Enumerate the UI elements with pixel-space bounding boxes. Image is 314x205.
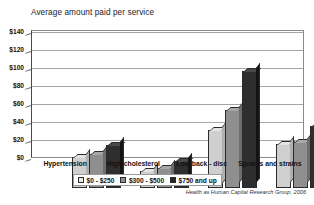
bar-group xyxy=(200,62,268,188)
bar-slot xyxy=(72,62,89,188)
chart-title: Average amount paid per service xyxy=(31,8,154,17)
y-tick-label: $0 xyxy=(17,154,24,161)
legend-swatch-icon xyxy=(120,177,126,183)
bar-slot xyxy=(208,62,225,188)
bar-slot xyxy=(174,62,191,188)
y-tick-label: $80 xyxy=(13,82,24,89)
source-note: Health as Human Capital Research Group, … xyxy=(186,189,306,195)
bar[interactable] xyxy=(310,126,314,188)
bar-slot xyxy=(140,62,157,188)
y-axis: $140$120$100$80$60$40$20$0 xyxy=(0,30,31,158)
legend-swatch-icon xyxy=(170,177,176,183)
y-tick-label: $20 xyxy=(13,136,24,143)
y-tick-label: $40 xyxy=(13,118,24,125)
legend-item[interactable]: $300 - $500 xyxy=(120,177,164,184)
gridline xyxy=(32,32,303,33)
legend-item[interactable]: $0 - $250 xyxy=(78,177,114,184)
bar-group xyxy=(64,62,132,188)
bar-slot xyxy=(89,62,106,188)
chart-container: Average amount paid per service $140$120… xyxy=(0,0,314,205)
x-axis: HypertensionHigh cholesterolLow back - d… xyxy=(31,160,304,167)
y-tick-label: $140 xyxy=(9,28,24,35)
y-tick-label: $60 xyxy=(13,100,24,107)
legend-swatch-icon xyxy=(78,177,84,183)
bar-slot xyxy=(106,62,123,188)
bar[interactable] xyxy=(242,71,257,188)
legend-label: $300 - $500 xyxy=(129,177,164,184)
bar-slot xyxy=(242,62,259,188)
plot-area xyxy=(31,30,304,158)
bar[interactable] xyxy=(225,110,240,188)
y-tick-label: $120 xyxy=(9,46,24,53)
gridline xyxy=(32,50,303,51)
legend-item[interactable]: $750 and up xyxy=(170,177,217,184)
bar-group xyxy=(267,62,314,188)
x-tick-label: Sprains and strains xyxy=(236,160,304,167)
y-tick-label: $100 xyxy=(9,64,24,71)
bar-slot xyxy=(293,62,310,188)
bar-slot xyxy=(157,62,174,188)
legend-label: $750 and up xyxy=(179,177,217,184)
bar-group xyxy=(132,62,200,188)
bar-slot xyxy=(310,62,314,188)
bar-slot xyxy=(276,62,293,188)
legend-label: $0 - $250 xyxy=(87,177,115,184)
bar-slot xyxy=(225,62,242,188)
x-tick-label: Low back - disc xyxy=(168,160,236,167)
bar-top-face xyxy=(311,123,314,127)
x-tick-label: High cholesterol xyxy=(99,160,167,167)
bars-layer xyxy=(64,62,314,188)
legend: $0 - $250$300 - $500$750 and up xyxy=(73,174,222,186)
x-tick-label: Hypertension xyxy=(31,160,99,167)
